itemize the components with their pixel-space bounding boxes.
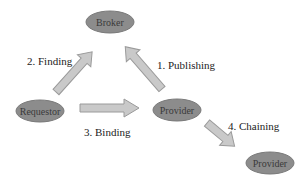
chaining-label: 4. Chaining	[228, 120, 280, 132]
soa-diagram: Broker Requestor Provider Provider 2. Fi…	[0, 0, 306, 183]
publishing-label: 1. Publishing	[157, 59, 216, 71]
binding-label: 3. Binding	[84, 126, 131, 138]
node-broker-label: Broker	[96, 17, 124, 28]
binding-arrow	[80, 99, 139, 117]
node-provider: Provider	[153, 99, 201, 121]
node-broker: Broker	[86, 11, 134, 33]
node-requestor: Requestor	[16, 100, 64, 122]
finding-label: 2. Finding	[27, 55, 73, 67]
diagram-svg: Broker Requestor Provider Provider 2. Fi…	[0, 0, 306, 183]
node-provider-chained-label: Provider	[253, 158, 288, 169]
finding-arrow	[49, 46, 99, 98]
node-provider-chained: Provider	[246, 152, 294, 174]
node-provider-label: Provider	[160, 105, 195, 116]
node-requestor-label: Requestor	[20, 106, 61, 117]
